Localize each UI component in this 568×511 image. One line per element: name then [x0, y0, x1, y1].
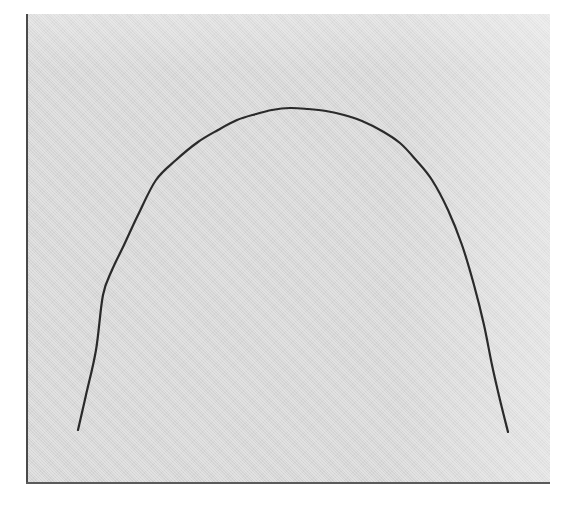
- arch-curve-path: [78, 108, 508, 432]
- curve-chart: [0, 0, 568, 511]
- figure-root: [0, 0, 568, 511]
